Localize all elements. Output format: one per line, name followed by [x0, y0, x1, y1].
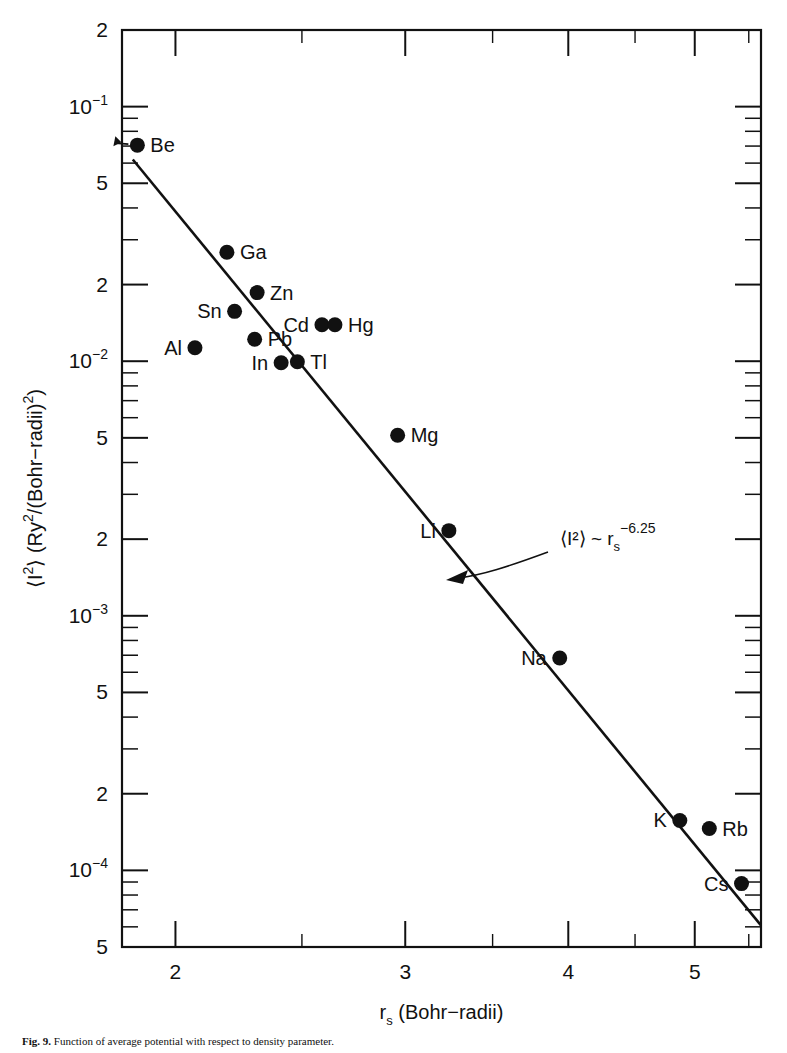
- x-tick-label: 4: [562, 960, 574, 983]
- point-label: Tl: [310, 351, 327, 373]
- data-point[interactable]: Rb: [702, 818, 748, 840]
- point-label: Hg: [348, 314, 374, 336]
- x-tick-label: 2: [170, 960, 182, 983]
- point-marker[interactable]: [314, 317, 329, 332]
- point-label: Cs: [704, 873, 728, 895]
- y-tick-label: 10−2: [69, 346, 109, 372]
- annotation-leader: [457, 552, 548, 578]
- x-tick-labels: 2345: [170, 960, 701, 983]
- point-label: Sn: [197, 300, 221, 322]
- data-point[interactable]: Be: [130, 134, 175, 156]
- y-tick-label: 2: [96, 18, 108, 41]
- point-label: Mg: [411, 424, 439, 446]
- point-marker[interactable]: [187, 340, 202, 355]
- point-label: Li: [420, 520, 436, 542]
- point-marker[interactable]: [130, 138, 145, 153]
- point-label: Ga: [240, 241, 268, 263]
- point-label: Be: [150, 134, 174, 156]
- point-marker[interactable]: [672, 813, 687, 828]
- be-arrowhead: [113, 136, 121, 146]
- point-marker[interactable]: [734, 876, 749, 891]
- point-label: K: [653, 809, 667, 831]
- x-tick-label: 5: [689, 960, 701, 983]
- data-point[interactable]: Sn: [197, 300, 242, 322]
- data-point[interactable]: Zn: [250, 282, 294, 304]
- data-point[interactable]: Pb: [247, 328, 292, 350]
- data-point[interactable]: Cs: [704, 873, 749, 895]
- point-marker[interactable]: [247, 332, 262, 347]
- point-label: Na: [521, 647, 547, 669]
- figure-container: 210−15210−25210−35210−452345BeGaZnSnCdHg…: [0, 0, 787, 1053]
- fit-annotation: ⟨I²⟩ ~ rs−6.25: [446, 520, 656, 584]
- point-label: Al: [164, 337, 182, 359]
- y-tick-label: 5: [96, 935, 108, 958]
- point-marker[interactable]: [327, 317, 342, 332]
- y-tick-label: 10−3: [69, 601, 109, 627]
- y-tick-label: 10−1: [69, 92, 109, 118]
- data-point[interactable]: Ga: [219, 241, 267, 263]
- point-marker[interactable]: [250, 285, 265, 300]
- annotation-arrowhead: [446, 570, 468, 584]
- annotation-text: ⟨I²⟩ ~ rs−6.25: [560, 520, 656, 554]
- y-tick-label: 2: [96, 527, 108, 550]
- data-point[interactable]: Hg: [327, 314, 373, 336]
- point-marker[interactable]: [274, 355, 289, 370]
- point-label: Rb: [722, 818, 748, 840]
- point-marker[interactable]: [219, 245, 234, 260]
- data-point[interactable]: In: [251, 352, 288, 374]
- x-tick-label: 3: [399, 960, 411, 983]
- figure-caption: Fig. 9. Function of average potential wi…: [22, 1035, 762, 1052]
- y-axis-title: ⟨I2⟩ (Ry2/(Bohr−radii)2): [20, 389, 46, 588]
- point-label: Zn: [270, 282, 293, 304]
- caption-number: Fig. 9.: [22, 1035, 51, 1047]
- data-point[interactable]: Mg: [390, 424, 438, 446]
- point-marker[interactable]: [227, 304, 242, 319]
- data-point[interactable]: Tl: [290, 351, 327, 373]
- point-marker[interactable]: [552, 650, 567, 665]
- point-marker[interactable]: [702, 821, 717, 836]
- y-tick-labels: 210−15210−25210−35210−45: [69, 18, 109, 958]
- point-marker[interactable]: [390, 428, 405, 443]
- data-point[interactable]: Na: [521, 647, 567, 669]
- data-points: BeGaZnSnCdHgPbAlInTlMgLiNaKRbCs: [130, 134, 749, 894]
- caption-text: Function of average potential with respe…: [54, 1035, 334, 1047]
- point-label: In: [251, 352, 268, 374]
- y-tick-label: 5: [96, 680, 108, 703]
- point-marker[interactable]: [290, 354, 305, 369]
- point-label: Pb: [268, 328, 292, 350]
- x-axis-title: rs (Bohr−radii): [380, 1001, 504, 1028]
- y-tick-label: 5: [96, 426, 108, 449]
- y-tick-label: 5: [96, 171, 108, 194]
- point-marker[interactable]: [441, 523, 456, 538]
- scatter-plot: 210−15210−25210−35210−452345BeGaZnSnCdHg…: [0, 0, 787, 1053]
- y-tick-label: 10−4: [69, 855, 109, 881]
- y-tick-label: 2: [96, 273, 108, 296]
- data-point[interactable]: Al: [164, 337, 202, 359]
- y-tick-label: 2: [96, 782, 108, 805]
